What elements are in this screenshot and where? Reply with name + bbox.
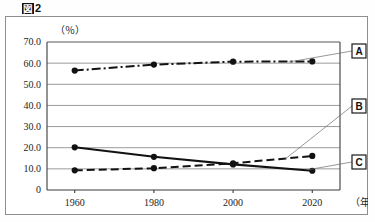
y-tick-label: 60.0 [24, 58, 42, 69]
series-line-C [75, 147, 313, 170]
x-tick-label: 1960 [65, 197, 85, 208]
x-axis-unit-label: （年） [350, 196, 368, 208]
data-point-C [151, 154, 157, 160]
x-tick-label: 1980 [144, 197, 164, 208]
x-tick-label: 2020 [302, 197, 322, 208]
x-tick-label: 2000 [223, 197, 243, 208]
data-point-B [309, 153, 315, 159]
callout-leader-A [289, 51, 352, 62]
y-axis-tick-labels: 010.020.030.040.050.060.070.0 [24, 36, 42, 195]
data-point-A [230, 59, 236, 65]
y-tick-label: 40.0 [24, 100, 42, 111]
data-point-A [151, 62, 157, 68]
callout-label-B: B [355, 101, 362, 112]
line-chart: 010.020.030.040.050.060.070.0 1960198020… [5, 16, 368, 215]
x-axis-tick-labels: 1960198020002020 [65, 197, 323, 208]
callout-label-A: A [355, 46, 362, 57]
figure-container: 図 2 010.020.030.040.050.060.070.0 196019… [0, 0, 375, 222]
y-tick-label: 70.0 [24, 36, 42, 47]
data-point-B [151, 165, 157, 171]
y-axis-unit-label: （％） [55, 25, 85, 36]
data-point-C [230, 161, 236, 167]
data-point-A [72, 67, 78, 73]
data-point-B [72, 167, 78, 173]
callout-label-C: C [355, 157, 362, 168]
figure-label-badge: 図 [22, 3, 34, 14]
data-series [72, 58, 316, 174]
y-tick-label: 20.0 [24, 142, 42, 153]
y-tick-label: 30.0 [24, 121, 42, 132]
y-tick-label: 0 [36, 184, 41, 195]
y-tick-label: 50.0 [24, 79, 42, 90]
figure-number: 2 [35, 2, 41, 14]
axis-unit-labels: （％）（年） [55, 25, 368, 208]
y-tick-label: 10.0 [24, 163, 42, 174]
data-point-A [309, 58, 315, 64]
figure-caption: 図 2 [22, 1, 41, 15]
callout-leader-B [285, 106, 352, 160]
data-point-C [72, 144, 78, 150]
